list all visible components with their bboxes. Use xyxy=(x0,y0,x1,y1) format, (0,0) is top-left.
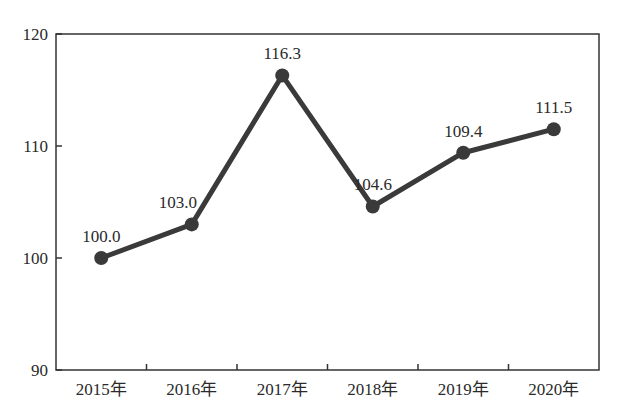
plot-frame xyxy=(56,34,599,370)
data-point xyxy=(366,199,380,213)
y-tick-label: 90 xyxy=(31,361,48,380)
data-label: 103.0 xyxy=(159,193,197,212)
series-line xyxy=(101,75,554,258)
x-tick-label: 2019年 xyxy=(438,380,489,399)
x-tick-label: 2016年 xyxy=(166,380,217,399)
line-chart: 90100110120 2015年2016年2017年2018年2019年202… xyxy=(0,0,617,412)
y-tick-label: 110 xyxy=(23,137,48,156)
data-label: 111.5 xyxy=(535,98,572,117)
data-label: 109.4 xyxy=(444,122,483,141)
data-point xyxy=(94,251,108,265)
data-label: 116.3 xyxy=(263,44,301,63)
y-tick-label: 120 xyxy=(23,25,49,44)
y-tick-label: 100 xyxy=(23,249,49,268)
x-tick-label: 2017年 xyxy=(257,380,308,399)
data-point xyxy=(547,122,561,136)
data-label: 100.0 xyxy=(82,227,120,246)
data-point xyxy=(275,68,289,82)
x-tick-label: 2015年 xyxy=(76,380,127,399)
x-tick-label: 2020年 xyxy=(528,380,579,399)
data-point xyxy=(456,146,470,160)
data-label: 104.6 xyxy=(354,175,392,194)
data-point xyxy=(185,217,199,231)
x-tick-label: 2018年 xyxy=(347,380,398,399)
